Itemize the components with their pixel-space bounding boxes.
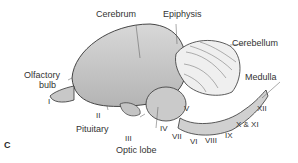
label-nerve-v: V [184, 104, 189, 114]
label-olfactory-bulb-line1: Olfactory [24, 70, 60, 80]
label-cerebrum: Cerebrum [96, 9, 136, 19]
label-nerve-ii: II [96, 111, 100, 121]
label-nerve-vi: VI [190, 137, 198, 147]
label-pituitary: Pituitary [76, 124, 109, 134]
label-cerebellum: Cerebellum [232, 38, 278, 48]
label-nerve-xii: XII [257, 104, 267, 114]
label-epiphysis: Epiphysis [163, 9, 202, 19]
label-nerve-x-xi: X & XI [236, 120, 259, 130]
panel-label: C [4, 140, 11, 150]
optic-lobe-shape [146, 87, 186, 121]
label-olfactory-bulb-line2: bulb [39, 80, 56, 90]
label-nerve-iii: III [125, 134, 132, 144]
label-nerve-ix: IX [225, 131, 233, 141]
label-nerve-iv: IV [160, 124, 168, 134]
label-optic-lobe: Optic lobe [116, 145, 157, 155]
label-nerve-vii: VII [172, 132, 182, 142]
label-nerve-viii: VIII [205, 136, 217, 146]
label-medulla: Medulla [245, 72, 277, 82]
cerebellum-shape [175, 40, 240, 95]
label-nerve-i: I [48, 97, 50, 107]
